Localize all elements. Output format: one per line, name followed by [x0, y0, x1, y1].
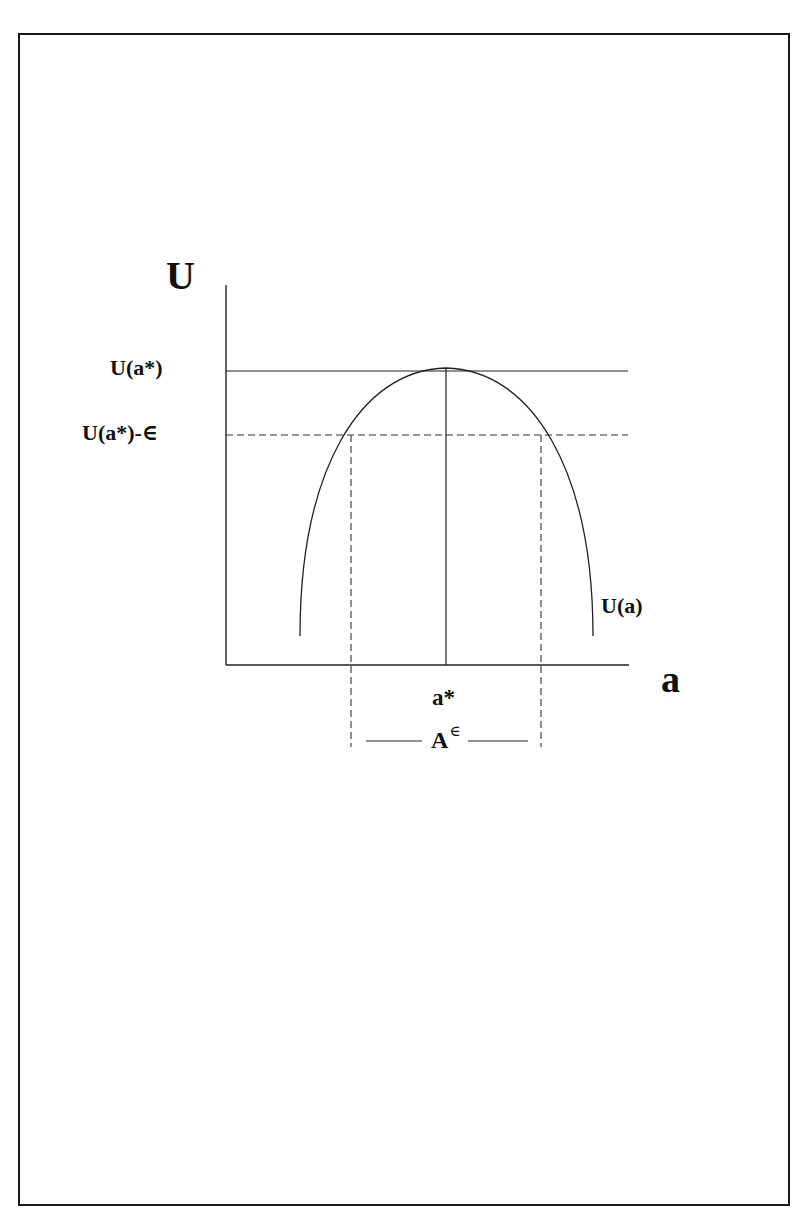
- epsilon-set-label-base: A: [431, 727, 448, 753]
- max-utility-label: U(a*): [110, 357, 163, 379]
- curve-label: U(a): [601, 595, 643, 617]
- y-axis-label: U: [166, 256, 195, 296]
- utility-diagram: [0, 0, 809, 1215]
- epsilon-set-label: A∈: [431, 728, 460, 752]
- epsilon-set-label-superscript: ∈: [449, 723, 460, 739]
- argmax-label: a*: [432, 686, 455, 709]
- x-axis-label: a: [661, 660, 680, 698]
- epsilon-utility-label: U(a*)-∈: [82, 422, 158, 444]
